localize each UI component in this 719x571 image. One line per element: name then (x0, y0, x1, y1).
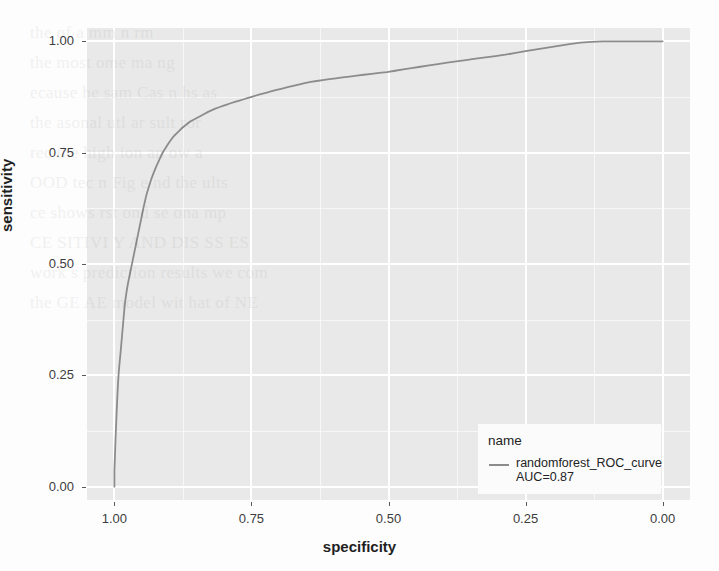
x-tick-mark (251, 502, 252, 506)
y-tick-mark (82, 41, 86, 42)
roc-curve-figure: 0.000.250.500.751.00 1.000.750.500.250.0… (0, 0, 719, 571)
legend-item-label: randomforest_ROC_curve AUC=0.87 (516, 457, 662, 484)
legend: name randomforest_ROC_curve AUC=0.87 (478, 424, 661, 494)
x-tick-mark (389, 502, 390, 506)
line-key-icon (488, 457, 510, 473)
legend-title: name (488, 433, 651, 448)
legend-auc-value: AUC=0.87 (516, 471, 662, 485)
y-axis-title: sensitivity (0, 159, 15, 232)
y-tick-label: 0.75 (30, 145, 74, 160)
y-tick-mark (82, 264, 86, 265)
legend-series-name: randomforest_ROC_curve (516, 457, 662, 471)
y-tick-label: 0.50 (30, 256, 74, 271)
x-axis-title: specificity (0, 538, 719, 555)
x-tick-label: 0.00 (633, 511, 693, 526)
x-tick-label: 0.50 (359, 511, 419, 526)
x-tick-label: 1.00 (84, 511, 144, 526)
y-tick-mark (82, 153, 86, 154)
legend-item[interactable]: randomforest_ROC_curve AUC=0.87 (488, 457, 651, 484)
y-tick-label: 0.00 (30, 479, 74, 494)
y-tick-mark (82, 375, 86, 376)
x-tick-mark (114, 502, 115, 506)
y-tick-mark (82, 487, 86, 488)
y-tick-label: 1.00 (30, 33, 74, 48)
x-tick-mark (526, 502, 527, 506)
x-tick-mark (663, 502, 664, 506)
y-tick-label: 0.25 (30, 367, 74, 382)
x-tick-label: 0.25 (496, 511, 556, 526)
x-tick-label: 0.75 (221, 511, 281, 526)
